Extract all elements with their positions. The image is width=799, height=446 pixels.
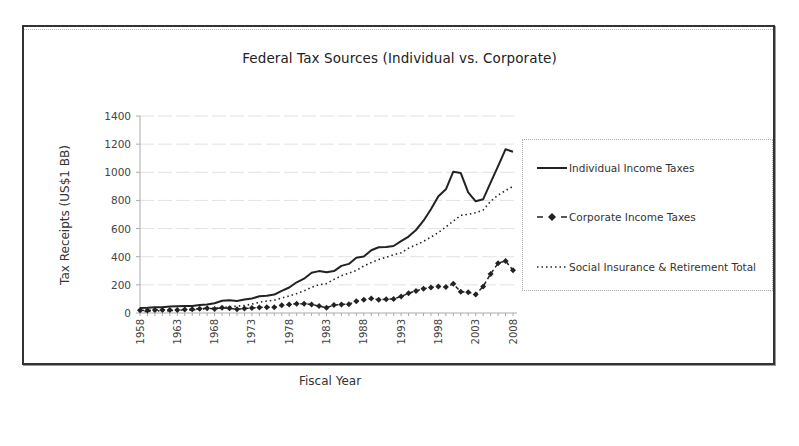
legend-item-social-insurance: Social Insurance & Retirement Total: [537, 261, 756, 273]
diamond-marker: [316, 303, 322, 309]
diamond-marker: [383, 296, 389, 302]
x-tick-label: 1963: [172, 319, 183, 344]
x-tick-label: 2008: [508, 319, 519, 344]
diamond-marker: [353, 298, 359, 304]
x-tick-label: 1958: [135, 319, 146, 344]
diamond-marker: [338, 301, 344, 307]
y-tick-label: 1000: [104, 166, 131, 178]
y-tick-label: 800: [111, 194, 131, 206]
x-tick-label: 1993: [396, 319, 407, 344]
diamond-marker: [256, 305, 262, 311]
diamond-marker: [406, 290, 412, 296]
diamond-marker: [413, 288, 419, 294]
diamond-marker: [324, 305, 330, 311]
x-tick-label: 1998: [433, 319, 444, 344]
diamond-marker: [301, 301, 307, 307]
diamond-marker: [398, 293, 404, 299]
diamond-marker: [241, 305, 247, 311]
x-tick-label: 1988: [358, 319, 369, 344]
diamond-marker: [346, 301, 352, 307]
x-tick-label: 1983: [321, 319, 332, 344]
legend-item-individual: Individual Income Taxes: [537, 162, 694, 174]
y-tick-label: 0: [124, 307, 131, 319]
diamond-marker: [279, 302, 285, 308]
diamond-marker: [249, 305, 255, 311]
diamond-marker: [264, 304, 270, 310]
x-tick-label: 2003: [470, 319, 481, 344]
x-tick-label: 1968: [209, 319, 220, 344]
diamond-marker: [309, 301, 315, 307]
diamond-marker: [204, 305, 210, 311]
diamond-marker: [435, 283, 441, 289]
series-line-2: [140, 186, 513, 311]
diamond-marker: [182, 307, 188, 313]
dotted-line-icon: [537, 262, 567, 272]
diamond-marker: [458, 289, 464, 295]
legend-item-corporate: Corporate Income Taxes: [537, 211, 696, 223]
diamond-marker: [227, 305, 233, 311]
x-axis: 1958196319681973197819831988199319982003…: [135, 313, 519, 344]
diamond-marker: [286, 302, 292, 308]
diamond-marker: [361, 297, 367, 303]
y-tick-label: 600: [111, 223, 131, 235]
y-tick-label: 1200: [104, 138, 131, 150]
diamond-marker: [465, 289, 471, 295]
diamond-marker: [271, 304, 277, 310]
diamond-marker: [368, 296, 374, 302]
diamond-marker: [331, 302, 337, 308]
y-tick-label: 400: [111, 251, 131, 263]
y-tick-label: 1400: [104, 110, 131, 122]
diamond-marker: [294, 301, 300, 307]
diamond-marker: [450, 281, 456, 287]
dashed-diamond-line-icon: [537, 212, 567, 222]
legend: Individual Income Taxes Corporate Income…: [522, 139, 773, 291]
x-tick-label: 1973: [246, 319, 257, 344]
legend-label: Social Insurance & Retirement Total: [569, 261, 756, 273]
diamond-marker: [473, 291, 479, 297]
diamond-marker: [376, 297, 382, 303]
diamond-marker: [391, 296, 397, 302]
grid-lines: [140, 116, 517, 285]
series-line-1: [140, 261, 513, 311]
diamond-marker: [420, 286, 426, 292]
legend-label: Corporate Income Taxes: [569, 211, 696, 223]
solid-line-icon: [537, 163, 567, 173]
x-tick-label: 1978: [284, 319, 295, 344]
y-axis: 0200400600800100012001400: [104, 110, 140, 319]
y-tick-label: 200: [111, 279, 131, 291]
legend-label: Individual Income Taxes: [569, 162, 694, 174]
data-series: [137, 149, 516, 313]
